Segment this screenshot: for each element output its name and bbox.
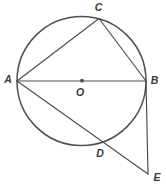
point-label-B: B xyxy=(151,74,159,86)
center-dot-O xyxy=(80,79,84,83)
point-label-O: O xyxy=(76,86,84,98)
segment-BE xyxy=(146,81,148,174)
point-label-D: D xyxy=(96,147,104,159)
point-label-A: A xyxy=(3,73,12,85)
geometry-diagram: ABCODE xyxy=(0,0,166,187)
point-label-C: C xyxy=(95,1,103,13)
segment-AC xyxy=(17,19,99,82)
segment-CB xyxy=(99,19,146,82)
diagram-canvas: ABCODE xyxy=(0,0,166,187)
point-label-E: E xyxy=(153,171,161,183)
